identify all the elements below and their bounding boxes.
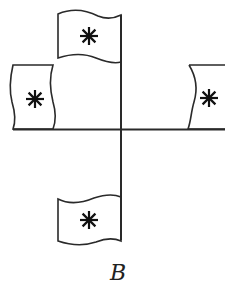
figure-label: B — [110, 262, 126, 281]
asterisk-icon — [26, 90, 44, 108]
asterisk-icon — [200, 89, 218, 107]
bottom-flag — [58, 195, 121, 245]
asterisk-icon — [80, 211, 98, 229]
asterisk-icon — [80, 27, 98, 45]
flag-cross-diagram — [0, 0, 225, 281]
right-flag — [188, 65, 225, 129]
top-flag — [58, 10, 121, 62]
left-flag — [10, 65, 55, 129]
